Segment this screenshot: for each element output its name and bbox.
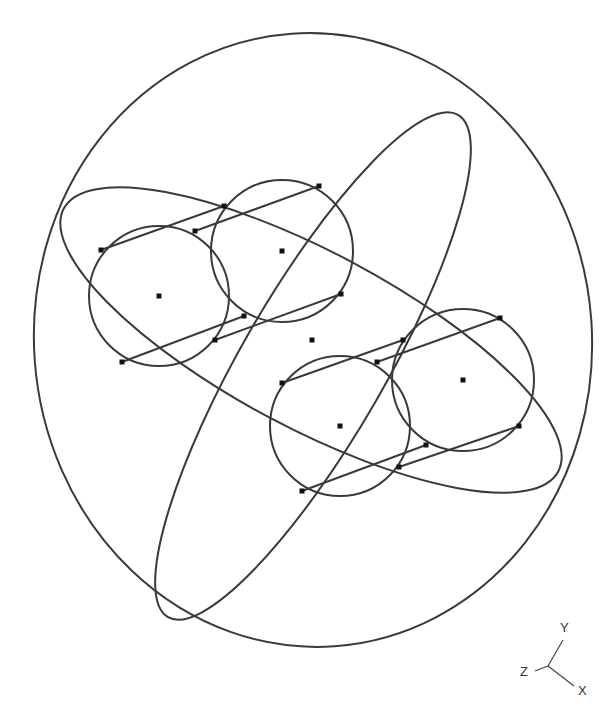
vertex-point[interactable] xyxy=(280,381,285,386)
axis-x-label: X xyxy=(578,683,587,698)
tangent-line xyxy=(122,316,244,362)
axis-triad: Y Z X xyxy=(520,620,587,698)
vertex-point[interactable] xyxy=(213,338,218,343)
tangent-line xyxy=(215,294,341,340)
cad-viewport[interactable]: Y Z X xyxy=(0,0,616,722)
vertex-point[interactable] xyxy=(242,314,247,319)
axis-x-line xyxy=(548,666,574,686)
axis-y-label: Y xyxy=(560,620,569,635)
vertex-point[interactable] xyxy=(317,184,322,189)
tangent-line xyxy=(399,426,519,467)
vertex-point[interactable] xyxy=(498,316,503,321)
axis-z-line xyxy=(535,666,548,671)
axis-y-line xyxy=(548,640,563,666)
tangent-line xyxy=(282,340,403,383)
tangent-line xyxy=(302,445,426,491)
vertex-point[interactable] xyxy=(338,424,343,429)
vertex-point[interactable] xyxy=(120,360,125,365)
vertex-point[interactable] xyxy=(375,360,380,365)
vertex-point[interactable] xyxy=(424,443,429,448)
vertex-point[interactable] xyxy=(310,338,315,343)
vertex-point[interactable] xyxy=(397,465,402,470)
vertex-point[interactable] xyxy=(157,294,162,299)
vertex-point[interactable] xyxy=(193,229,198,234)
vertex-point[interactable] xyxy=(222,204,227,209)
vertex-point[interactable] xyxy=(99,248,104,253)
tangent-line xyxy=(195,186,319,231)
vertex-point[interactable] xyxy=(339,292,344,297)
vertex-point[interactable] xyxy=(300,489,305,494)
vertex-point[interactable] xyxy=(461,378,466,383)
vertex-point[interactable] xyxy=(401,338,406,343)
vertex-point[interactable] xyxy=(280,249,285,254)
axis-z-label: Z xyxy=(520,664,528,679)
vertex-point[interactable] xyxy=(517,424,522,429)
tangent-line xyxy=(377,318,500,362)
